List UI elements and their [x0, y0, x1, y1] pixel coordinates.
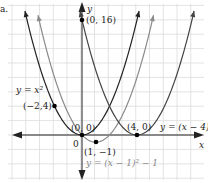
- point-4-0: [135, 133, 140, 138]
- arrow-right-icon: [194, 132, 204, 139]
- point-0-0: [80, 133, 85, 138]
- arrow-up-icon: [79, 2, 86, 12]
- point-label-0-0: (0, 0): [71, 123, 95, 133]
- x-axis-label: x: [199, 140, 204, 150]
- origin-label: 0: [73, 139, 79, 149]
- point-label-1-neg1: (1, −1): [84, 147, 116, 157]
- y-axis-label: y: [86, 4, 93, 14]
- equation-label-x-squared: y = x²: [15, 85, 43, 95]
- equation-label-x-minus-1: y = (x − 1)² − 1: [85, 158, 158, 168]
- point-0-16: [80, 18, 85, 23]
- arrow-left-icon: [12, 132, 22, 139]
- curve-arrowhead-icon: [24, 11, 29, 17]
- equation-label-x-minus-4: y = (x − 4)²: [159, 122, 208, 132]
- point-label-neg2-4: (−2,4): [23, 101, 52, 111]
- parabola-graph: a. y x 0 (0, 16) (−2,4) (0, 0) (1, −1) (…: [0, 0, 208, 183]
- point-1-neg1: [94, 140, 99, 145]
- point-neg2-4: [52, 104, 57, 109]
- part-label: a.: [0, 4, 8, 14]
- point-label-0-16: (0, 16): [86, 15, 116, 25]
- point-label-4-0: (4, 0): [127, 122, 151, 132]
- curve-arrowhead-icon: [150, 15, 155, 21]
